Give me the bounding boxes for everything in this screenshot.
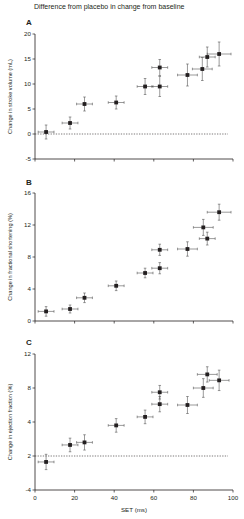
data-point: [108, 281, 124, 291]
panel-b: B0481216Change in fractional shortening …: [7, 178, 233, 324]
x-tick-label: 100: [228, 494, 239, 501]
y-tick-label: 8: [28, 384, 32, 391]
panel-letter: A: [26, 18, 32, 27]
x-tick-label: 40: [111, 494, 118, 501]
data-point: [192, 58, 212, 81]
y-tick-label: 4: [28, 285, 32, 292]
data-point: [178, 64, 198, 86]
panel-letter: C: [26, 338, 32, 347]
data-point: [193, 379, 213, 398]
data-point: [178, 242, 198, 256]
y-axis-title: Change in ejection fraction (%): [7, 384, 13, 461]
data-point: [207, 204, 231, 220]
data-point: [62, 117, 78, 129]
data-point: [77, 97, 93, 111]
y-tick-label: 16: [24, 189, 31, 196]
y-tick-label: 8: [28, 253, 32, 260]
data-point: [137, 410, 153, 424]
data-point: [199, 47, 215, 67]
data-point: [77, 435, 93, 450]
data-point: [152, 60, 168, 76]
y-axis-title: Change in stroke volume (mL): [7, 59, 13, 134]
y-tick-label: 0: [28, 317, 32, 324]
x-tick-label: 60: [150, 494, 157, 501]
x-tick-label: 20: [71, 494, 78, 501]
x-tick-label: 80: [190, 494, 197, 501]
data-point: [152, 263, 168, 274]
data-point: [178, 397, 198, 414]
data-point: [152, 385, 168, 399]
panel-letter: B: [26, 178, 32, 187]
data-point: [199, 232, 215, 245]
y-tick-label: 12: [24, 221, 31, 228]
y-tick-label: -4: [25, 486, 31, 493]
y-axis-title: Change in fractional shortening (%): [7, 213, 13, 301]
y-tick-label: 10: [24, 80, 31, 87]
y-tick-label: -5: [25, 155, 31, 162]
panel-c: C-424812020406080100Change in ejection f…: [7, 338, 239, 513]
x-tick-label: 0: [33, 494, 37, 501]
y-tick-label: 15: [24, 55, 31, 62]
data-point: [38, 307, 54, 317]
y-tick-label: 12: [24, 350, 31, 357]
data-point: [152, 77, 168, 97]
data-point: [193, 219, 213, 235]
data-point: [62, 438, 78, 452]
data-point: [197, 367, 217, 382]
data-point: [38, 125, 54, 139]
y-tick-label: 5: [28, 105, 32, 112]
data-point: [207, 42, 231, 66]
figure-chart: A-505101520Change in stroke volume (mL)B…: [0, 0, 244, 519]
data-point: [137, 268, 153, 278]
y-tick-label: 4: [28, 418, 32, 425]
data-point: [108, 419, 124, 433]
y-tick-label: 20: [24, 30, 31, 37]
x-axis-title: SET (ms): [121, 506, 147, 513]
data-point: [209, 370, 229, 390]
data-point: [152, 244, 168, 255]
y-tick-label: 0: [28, 130, 32, 137]
data-point: [108, 96, 124, 109]
data-point: [38, 454, 54, 469]
y-tick-label: 2: [28, 452, 32, 459]
data-point: [62, 305, 78, 313]
data-point: [77, 293, 93, 303]
panel-a: A-505101520Change in stroke volume (mL): [7, 18, 233, 162]
data-point: [137, 79, 153, 95]
